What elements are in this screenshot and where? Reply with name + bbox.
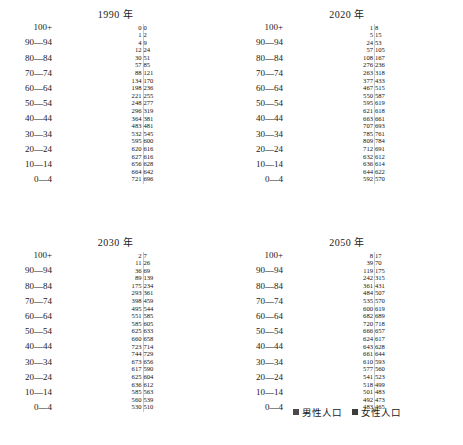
female-value-label: 612 [144, 382, 154, 389]
bar-pair: 00 [56, 24, 229, 32]
bar-pair: 293361 [56, 290, 229, 298]
male-value-label: 467 [363, 85, 373, 92]
bar-pair: 585605 [56, 320, 229, 328]
pyramid-row: 30—34532545 [0, 130, 231, 138]
bar-pair: 263318 [287, 70, 461, 78]
bar-pair: 624617 [287, 336, 461, 344]
bar-pair: 57105 [287, 47, 461, 55]
bar-pair: 242315 [287, 275, 461, 283]
bar-pair: 535570 [287, 298, 461, 306]
male-value-label: 532 [132, 131, 142, 138]
bar-pair: 723714 [56, 343, 229, 351]
bar-pair: 134170 [56, 77, 229, 85]
pyramid-row: 70—74263318 [231, 70, 463, 78]
pyramid-row: 50—54666657 [231, 328, 463, 336]
legend-item-female: 女性人口 [352, 405, 401, 419]
female-value-label: 612 [375, 154, 385, 161]
female-half: 523 [374, 374, 385, 382]
pyramid-row: 100+00 [0, 24, 231, 32]
female-value-label: 657 [375, 328, 385, 335]
bar-pair: 660658 [56, 336, 229, 344]
bar-pair: 495544 [56, 305, 229, 313]
female-value-label: 696 [144, 176, 154, 183]
female-value-label: 51 [144, 55, 151, 62]
bar-pair: 577560 [287, 366, 461, 374]
male-value-label: 785 [363, 131, 373, 138]
panel-2050: 2050 年 100+817397090—9411917524231580—84… [231, 228, 463, 445]
bar-pair: 18 [287, 24, 461, 32]
age-group-label: 0—4 [0, 403, 52, 412]
bar-pair: 707693 [287, 123, 461, 131]
pyramid-row: 60—64551585 [0, 313, 231, 321]
male-value-label: 712 [363, 146, 373, 153]
female-value-label: 619 [375, 306, 385, 313]
bar-pair: 621618 [287, 108, 461, 116]
female-value-label: 483 [375, 389, 385, 396]
male-value-label: 36 [135, 268, 142, 275]
bar-pair: 809784 [287, 138, 461, 146]
male-value-label: 560 [132, 397, 142, 404]
male-half: 625 [132, 374, 143, 382]
bar-pair: 12 [56, 32, 229, 40]
bar-pair: 550587 [287, 92, 461, 100]
bar-pair: 744729 [56, 351, 229, 359]
bar-pair: 198236 [56, 85, 229, 93]
female-value-label: 0 [144, 25, 147, 32]
male-value-label: 4 [138, 40, 141, 47]
plot-2030: 100+27112690—9436698913980—8417523429336… [0, 252, 231, 412]
pyramid-row: 30—34673656 [0, 358, 231, 366]
bar-pair: 817 [287, 252, 461, 260]
male-value-label: 221 [132, 93, 142, 100]
female-value-label: 544 [144, 306, 154, 313]
female-value-label: 139 [144, 275, 154, 282]
female-value-label: 499 [375, 382, 385, 389]
bar-pair: 632612 [287, 153, 461, 161]
bar-pair: 643628 [287, 343, 461, 351]
bar-pair: 600619 [287, 305, 461, 313]
female-value-label: 167 [375, 55, 385, 62]
female-value-label: 718 [375, 321, 385, 328]
pyramid-row: 70—74535570 [231, 298, 463, 306]
female-value-label: 473 [375, 397, 385, 404]
male-half: 721 [132, 176, 143, 184]
female-value-label: 600 [144, 138, 154, 145]
female-value-label: 560 [375, 366, 385, 373]
bar-pair: 617590 [56, 366, 229, 374]
male-value-label: 682 [363, 313, 373, 320]
age-group-label: 0—4 [0, 175, 52, 184]
female-value-label: 614 [375, 161, 385, 168]
female-value-label: 617 [375, 336, 385, 343]
legend-label-female: 女性人口 [361, 405, 401, 419]
female-half: 658 [143, 336, 154, 344]
bar-pair: 636612 [56, 381, 229, 389]
female-value-label: 319 [144, 108, 154, 115]
pyramid-row: 0—4530510 [0, 404, 231, 412]
female-value-label: 729 [144, 351, 154, 358]
male-value-label: 293 [132, 290, 142, 297]
bar-pair: 1224 [56, 47, 229, 55]
male-value-label: 723 [132, 344, 142, 351]
female-value-label: 381 [144, 116, 154, 123]
bar-pair: 492473 [287, 396, 461, 404]
male-value-label: 721 [132, 176, 142, 183]
male-value-label: 11 [135, 260, 141, 267]
male-value-label: 483 [132, 123, 142, 130]
bar-pair: 530510 [56, 404, 229, 412]
male-value-label: 600 [363, 306, 373, 313]
female-value-label: 8 [375, 25, 378, 32]
male-half: 660 [132, 336, 143, 344]
pyramid-row: 90—943669 [0, 267, 231, 275]
female-value-label: 277 [144, 100, 154, 107]
male-value-label: 518 [363, 382, 373, 389]
male-value-label: 656 [132, 161, 142, 168]
female-value-label: 585 [144, 313, 154, 320]
panel-title-2050: 2050 年 [231, 234, 463, 249]
bar-pair: 483481 [56, 123, 229, 131]
pyramid-row: 80—843051 [0, 54, 231, 62]
male-value-label: 585 [132, 389, 142, 396]
pyramid-row: 40—44663661 [231, 115, 463, 123]
bar-pair: 27 [56, 252, 229, 260]
pyramid-row: 80—84361431 [231, 282, 463, 290]
bar-pair: 627616 [56, 153, 229, 161]
male-value-label: 364 [132, 116, 142, 123]
